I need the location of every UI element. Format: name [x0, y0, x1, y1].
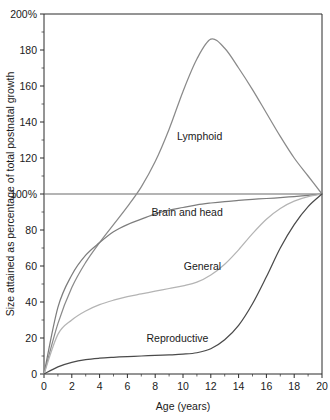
x-tick-label: 8: [152, 380, 158, 392]
x-tick-label: 12: [205, 380, 217, 392]
y-tick-label: 180: [19, 44, 37, 56]
x-tick-label: 4: [97, 380, 103, 392]
curve-label-reproductive: Reproductive: [147, 332, 209, 344]
y-axis-title: Size attained as percentage of total pos…: [4, 72, 16, 317]
growth-curves-figure: 020406080100%120140160180200% 0246810121…: [0, 0, 330, 420]
curve-label-brain-and-head: Brain and head: [152, 206, 223, 218]
curve-label-general: General: [184, 260, 221, 272]
y-tick-label: 80: [25, 224, 37, 236]
y-tick-label: 20: [25, 332, 37, 344]
y-tick-label: 120: [19, 152, 37, 164]
y-tick-label: 40: [25, 296, 37, 308]
x-tick-label: 0: [41, 380, 47, 392]
x-tick-label: 10: [177, 380, 189, 392]
x-axis-title: Age (years): [156, 400, 210, 412]
x-tick-label: 6: [124, 380, 130, 392]
x-tick-label: 20: [316, 380, 328, 392]
y-tick-label: 140: [19, 116, 37, 128]
x-tick-label: 18: [288, 380, 300, 392]
scammon-growth-chart: 020406080100%120140160180200% 0246810121…: [0, 0, 330, 420]
y-tick-label: 160: [19, 80, 37, 92]
y-tick-label: 0: [31, 368, 37, 380]
x-tick-label: 14: [233, 380, 245, 392]
y-tick-label: 200%: [10, 8, 37, 20]
x-tick-label: 2: [69, 380, 75, 392]
x-tick-label: 16: [261, 380, 273, 392]
curve-label-lymphoid: Lymphoid: [177, 130, 222, 142]
y-tick-label: 60: [25, 260, 37, 272]
